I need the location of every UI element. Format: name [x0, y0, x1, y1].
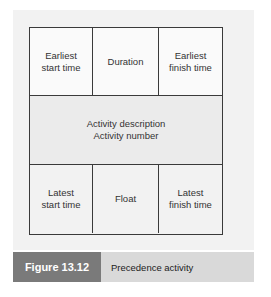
duration-cell: Duration [93, 28, 159, 95]
latest-finish-time-cell: Latest finish time [159, 165, 222, 233]
float-label: Float [115, 193, 136, 205]
top-row: Earliest start time Duration Earliest fi… [30, 28, 222, 96]
earliest-start-time-label: Earliest start time [41, 50, 80, 74]
earliest-finish-time-cell: Earliest finish time [159, 28, 222, 95]
latest-finish-time-label: Latest finish time [169, 187, 212, 211]
latest-start-time-label: Latest start time [41, 187, 80, 211]
middle-row: Activity description Activity number [30, 96, 222, 164]
float-cell: Float [93, 165, 159, 233]
duration-label: Duration [108, 56, 144, 68]
activity-description-label: Activity description [87, 118, 166, 130]
figure-caption: Figure 13.12 Precedence activity [13, 252, 254, 282]
latest-start-time-cell: Latest start time [30, 165, 93, 233]
activity-number-label: Activity number [87, 130, 166, 142]
figure-number: Figure 13.12 [13, 252, 101, 282]
bottom-row: Latest start time Float Latest finish ti… [30, 164, 222, 233]
earliest-finish-time-label: Earliest finish time [169, 50, 212, 74]
earliest-start-time-cell: Earliest start time [30, 28, 93, 95]
activity-description-cell: Activity description Activity number [30, 96, 222, 164]
precedence-activity-box: Earliest start time Duration Earliest fi… [29, 27, 223, 235]
figure-title: Precedence activity [101, 252, 254, 282]
